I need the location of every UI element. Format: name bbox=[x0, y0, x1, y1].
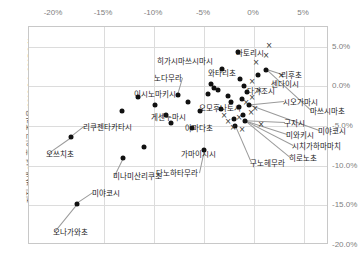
x-grid-line bbox=[154, 27, 155, 243]
data-point-label: 미와키시 bbox=[286, 129, 314, 140]
data-marker-x: × bbox=[249, 94, 256, 102]
data-marker-x: × bbox=[266, 42, 273, 50]
data-marker-x: × bbox=[239, 126, 246, 134]
y-tick-label: -20.0% bbox=[332, 240, 357, 249]
y-tick-label: 5.0% bbox=[332, 41, 350, 50]
data-marker-dot bbox=[226, 93, 231, 98]
data-marker-x: × bbox=[236, 114, 243, 122]
data-point-label: 오쓰치초 bbox=[46, 148, 74, 159]
data-point-label: 마쓰시마초 bbox=[310, 105, 345, 116]
data-point-label: 센다이시 bbox=[271, 78, 299, 89]
data-point-label: 가마이시시 bbox=[181, 148, 216, 159]
data-marker-dot bbox=[264, 67, 269, 72]
data-point-label: 게센누마시 bbox=[151, 111, 186, 122]
x-tick-label: -15% bbox=[94, 8, 113, 17]
data-marker-dot bbox=[121, 155, 126, 160]
data-point-label: 히로노초 bbox=[289, 152, 317, 163]
data-point-label: 구지시 bbox=[284, 117, 305, 128]
y-tick-label: 0.0% bbox=[332, 81, 350, 90]
x-tick-label: 5% bbox=[297, 8, 309, 17]
data-marker-dot bbox=[120, 109, 125, 114]
data-marker-x: × bbox=[258, 121, 265, 129]
data-marker-x: × bbox=[221, 112, 228, 120]
data-marker-dot bbox=[142, 144, 147, 149]
y-tick-label: -10.0% bbox=[332, 160, 357, 169]
data-point-label: 시치가하마마치 bbox=[292, 140, 341, 151]
data-marker-dot bbox=[243, 119, 248, 124]
data-point-label: 미야코시 bbox=[92, 187, 120, 198]
data-marker-dot bbox=[206, 91, 211, 96]
data-point-label: 미나미산리쿠초 bbox=[113, 170, 162, 181]
data-point-label: 다노하타무라 bbox=[156, 167, 198, 178]
data-marker-x: × bbox=[248, 109, 255, 117]
data-point-label: 야마다초 bbox=[185, 122, 213, 133]
data-marker-dot bbox=[69, 135, 74, 140]
data-marker-x: × bbox=[230, 124, 237, 132]
y-tick-label: -15.0% bbox=[332, 200, 357, 209]
data-point-label: 리쿠젠타카타시 bbox=[83, 121, 132, 132]
x-grid-line bbox=[104, 27, 105, 243]
x-tick-label: -5% bbox=[196, 8, 210, 17]
scatter-chart: 지진 발생 2년 후 인구 증가율(2012.3.1~2015.8.1) -20… bbox=[0, 0, 360, 265]
data-point-label: 오나가와초 bbox=[53, 226, 88, 237]
data-marker-dot bbox=[176, 93, 181, 98]
data-marker-x: × bbox=[243, 99, 250, 107]
x-tick-label: -10% bbox=[144, 8, 163, 17]
data-point-label: 와타리초 bbox=[208, 67, 236, 78]
data-marker-dot bbox=[256, 72, 261, 77]
data-marker-dot bbox=[75, 201, 80, 206]
data-marker-dot bbox=[153, 102, 158, 107]
data-marker-x: × bbox=[253, 59, 260, 67]
data-marker-dot bbox=[238, 77, 243, 82]
data-point-label: 구노헤무라 bbox=[250, 157, 285, 168]
y-grid-line bbox=[29, 47, 327, 48]
data-marker-dot bbox=[186, 100, 191, 105]
y-grid-line bbox=[29, 126, 327, 127]
data-marker-dot bbox=[242, 83, 247, 88]
data-point-label: 나토리시 bbox=[236, 47, 264, 58]
x-tick-label: -20% bbox=[44, 8, 63, 17]
data-point-label: 이시노마키시 bbox=[134, 88, 176, 99]
data-point-label: 오모후나토시 bbox=[199, 102, 241, 113]
data-point-label: 히가시마쓰시마시 bbox=[157, 55, 213, 66]
data-point-label: 미야코시 bbox=[318, 125, 346, 136]
data-point-label: 노다무라 bbox=[154, 72, 182, 83]
data-marker-dot bbox=[216, 88, 221, 93]
data-point-label: 다가조시 bbox=[247, 85, 275, 96]
x-tick-label: 0% bbox=[247, 8, 259, 17]
